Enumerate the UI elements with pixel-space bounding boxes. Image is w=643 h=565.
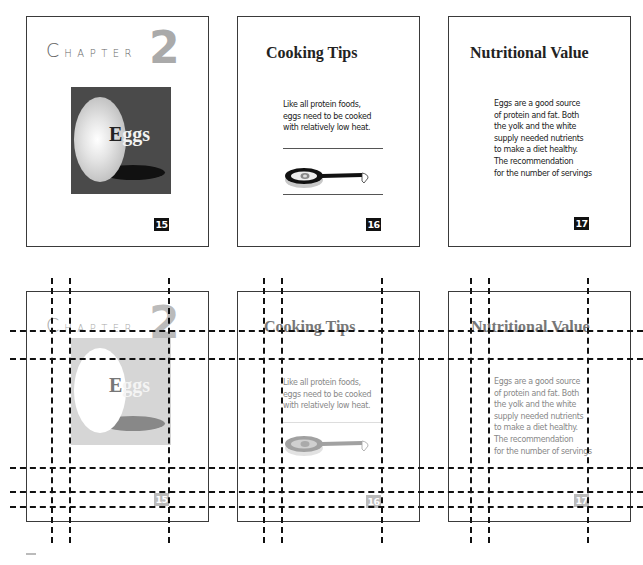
page-15-frame: CHAPTER 2 Eggs 15 (26, 16, 209, 247)
page-heading: Cooking Tips (264, 318, 355, 336)
eggs-image: Eggs (71, 87, 171, 194)
guide-vertical-column-left (69, 278, 71, 543)
divider-top (283, 148, 383, 149)
page-17-grid-frame: Nutritional Value Eggs are a good source… (448, 291, 631, 522)
page-number-badge: 15 (154, 218, 169, 231)
guide-vertical-column-right (381, 278, 383, 543)
page-heading: Nutritional Value (470, 44, 589, 62)
page-number-badge: 16 (366, 218, 381, 231)
guide-horizontal-heading-baseline (10, 330, 643, 332)
guide-horizontal-folio-top (10, 491, 643, 493)
eggs-image: Eggs (71, 338, 171, 445)
body-paragraph: Eggs are a good source of protein and fa… (494, 375, 592, 456)
page-15-grid-frame: CHAPTER 2 Eggs 15 (26, 291, 209, 522)
chapter-label: CHAPTER (46, 314, 137, 336)
body-paragraph: Eggs are a good source of protein and fa… (494, 97, 592, 178)
guide-vertical-column-right (168, 278, 170, 543)
guide-horizontal-folio-bottom (10, 506, 643, 508)
frying-pan-icon (284, 166, 384, 192)
page-number-badge: 17 (574, 217, 589, 230)
eggs-caption: Eggs (109, 123, 150, 146)
chapter-number: 2 (149, 24, 180, 72)
chapter-label: CHAPTER (46, 39, 137, 61)
divider-top (283, 422, 383, 423)
guide-vertical-column-left (488, 278, 490, 543)
corner-mark (26, 553, 36, 555)
body-paragraph: Like all protein foods, eggs need to be … (283, 98, 371, 133)
guide-vertical-column-right (587, 278, 589, 543)
guide-vertical-margin-left (51, 278, 53, 543)
divider-bottom (283, 194, 383, 195)
body-paragraph: Like all protein foods, eggs need to be … (283, 376, 371, 411)
frying-pan-icon (284, 434, 384, 460)
eggs-caption: Eggs (109, 374, 150, 397)
guide-horizontal-content-bottom (10, 467, 643, 469)
page-17-frame: Nutritional Value Eggs are a good source… (448, 16, 631, 247)
page-16-frame: Cooking Tips Like all protein foods, egg… (237, 16, 420, 247)
guide-vertical-column-left (281, 278, 283, 543)
guide-vertical-margin-left (263, 278, 265, 543)
guide-horizontal-content-top (10, 358, 643, 360)
guide-vertical-margin-left (470, 278, 472, 543)
page-heading: Cooking Tips (266, 44, 357, 62)
page-number-badge: 15 (154, 493, 169, 506)
